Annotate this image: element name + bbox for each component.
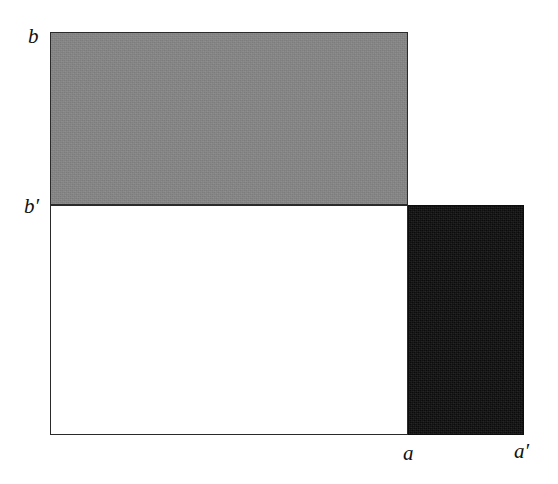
label-a-prime-base: a [514, 439, 525, 463]
right-black-rectangle [408, 205, 524, 435]
label-a-prime: a′ [514, 441, 529, 462]
label-b: b [28, 26, 39, 47]
label-b-prime-mark: ′ [35, 194, 40, 218]
upper-gray-rectangle [50, 32, 408, 205]
figure-canvas: b b′ a a′ [0, 0, 558, 484]
label-b-prime: b′ [24, 196, 39, 217]
lower-white-rectangle [50, 205, 408, 435]
label-a: a [403, 443, 414, 464]
label-a-prime-mark: ′ [525, 439, 530, 463]
label-b-prime-base: b [24, 194, 35, 218]
